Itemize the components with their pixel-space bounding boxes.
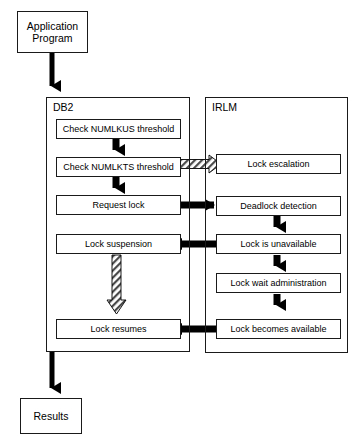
- node-lock-is-unavailable[interactable]: Lock is unavailable: [216, 234, 341, 254]
- lock-escalation-label: Lock escalation: [247, 159, 309, 169]
- application-program-label: Application Program: [27, 20, 78, 44]
- panel-db2-title: DB2: [52, 101, 74, 113]
- node-deadlock-detection[interactable]: Deadlock detection: [216, 196, 341, 216]
- lock-resumes-label: Lock resumes: [90, 324, 146, 334]
- deadlock-detection-label: Deadlock detection: [240, 201, 317, 211]
- application-program-line1: Application: [27, 20, 78, 32]
- node-request-lock[interactable]: Request lock: [56, 195, 181, 215]
- lock-is-unavailable-label: Lock is unavailable: [240, 239, 316, 249]
- lock-suspension-label: Lock suspension: [85, 239, 152, 249]
- check-numlkus-label: Check NUMLKUS threshold: [63, 124, 175, 134]
- node-lock-becomes-available[interactable]: Lock becomes available: [216, 319, 341, 339]
- node-application-program[interactable]: Application Program: [17, 11, 88, 53]
- panel-irlm-title: IRLM: [211, 101, 238, 113]
- check-numlkts-label: Check NUMLKTS threshold: [63, 162, 174, 172]
- node-check-numlkus[interactable]: Check NUMLKUS threshold: [56, 119, 181, 139]
- node-check-numlkts[interactable]: Check NUMLKTS threshold: [56, 157, 181, 177]
- node-lock-escalation[interactable]: Lock escalation: [216, 154, 341, 174]
- lock-wait-administration-label: Lock wait administration: [230, 278, 326, 288]
- application-program-line2: Program: [27, 32, 78, 44]
- diagram-canvas: Application Program DB2 IRLM Check NUMLK…: [0, 0, 358, 448]
- results-label: Results: [33, 410, 68, 422]
- panel-irlm: [205, 97, 348, 353]
- node-lock-resumes[interactable]: Lock resumes: [56, 319, 181, 339]
- lock-becomes-available-label: Lock becomes available: [230, 324, 326, 334]
- request-lock-label: Request lock: [92, 200, 144, 210]
- node-lock-wait-administration[interactable]: Lock wait administration: [216, 273, 341, 293]
- node-lock-suspension[interactable]: Lock suspension: [56, 234, 181, 254]
- node-results[interactable]: Results: [20, 398, 82, 434]
